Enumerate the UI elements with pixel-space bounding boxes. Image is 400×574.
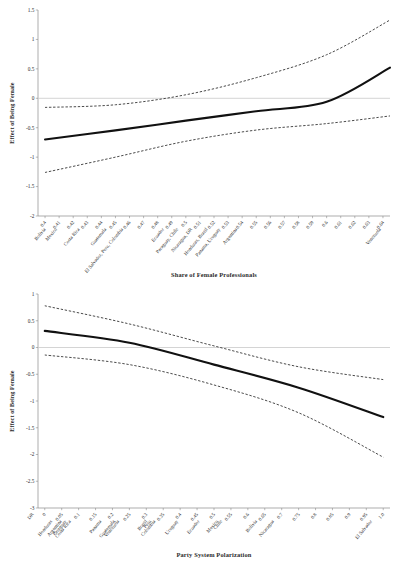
x-tick-label: 0.6 (242, 512, 250, 520)
y-tick-label: -2 (30, 451, 35, 457)
country-label: Panama, Uruguay (195, 227, 223, 259)
chart-panel-top: 1.510.50-0.5-1-1.5-20.40.410.420.430.440… (0, 0, 400, 288)
y-tick-label: 1 (32, 291, 35, 297)
x-tick-label: 0.47 (136, 220, 146, 230)
chart-panel-bottom: 10.50-0.5-1-1.5-2-2.5-300.050.10.150.20.… (0, 286, 400, 574)
y-tick-label: 0 (32, 344, 35, 350)
y-tick-label: 1 (32, 36, 35, 42)
y-tick-label: -0.5 (26, 371, 35, 377)
x-axis-title: Share of Female Professionals (171, 271, 257, 278)
x-tick-label: 0.65 (257, 512, 267, 522)
x-tick-label: 0.59 (305, 220, 315, 230)
confidence-interval-line (45, 355, 383, 457)
y-axis-title: Effect of Being Female (9, 82, 15, 143)
x-tick-label: 0.51 (193, 220, 203, 230)
x-tick-label: 0.48 (150, 220, 160, 230)
x-tick-label: 0.61 (333, 220, 343, 230)
y-tick-label: -1.5 (26, 425, 35, 431)
confidence-interval-line (45, 306, 383, 380)
x-tick-label: 0.4 (39, 220, 47, 228)
x-tick-label: 0.42 (66, 220, 76, 230)
y-tick-label: -2.5 (26, 478, 35, 484)
country-label: Bolivia (245, 518, 259, 533)
y-tick-label: -3 (30, 505, 35, 511)
x-tick-label: 0.54 (235, 220, 245, 230)
y-tick-label: 0.5 (28, 66, 35, 72)
x-tick-label: 0.56 (263, 220, 273, 230)
country-label: Uruguay (164, 519, 179, 536)
x-axis-title: Party System Polarization (176, 551, 251, 558)
country-label: Costa Rica (63, 226, 81, 247)
x-tick-label: 0.53 (221, 220, 231, 230)
x-tick-label: 0.35 (156, 512, 166, 522)
x-tick-label: 0.7 (276, 512, 284, 520)
y-tick-label: -1.5 (26, 183, 35, 189)
country-label: Venezuela (365, 226, 383, 246)
x-tick-label: 0.85 (325, 512, 335, 522)
x-tick-label: 0.5 (208, 512, 216, 520)
x-tick-label: 0.52 (207, 220, 217, 230)
x-tick-label: 0.6 (321, 220, 329, 228)
x-tick-label: 0.45 (108, 220, 118, 230)
x-tick-label: 0.62 (348, 220, 358, 230)
y-tick-label: -1 (30, 154, 35, 160)
y-tick-label: -1 (30, 398, 35, 404)
x-tick-label: 0.63 (362, 220, 372, 230)
x-tick-label: 0.5 (180, 220, 188, 228)
country-label: El Salvador (354, 519, 373, 540)
y-tick-label: 1.5 (28, 7, 35, 13)
confidence-interval-line (45, 116, 390, 173)
x-tick-label: 0.1 (73, 512, 81, 520)
x-tick-label: 0.58 (291, 220, 301, 230)
x-tick-label: 0.55 (249, 220, 259, 230)
y-tick-label: -2 (30, 213, 35, 219)
chart-top-svg: 1.510.50-0.5-1-1.5-20.40.410.420.430.440… (0, 0, 400, 288)
x-tick-label: 0.9 (344, 512, 352, 520)
confidence-interval-line (45, 20, 390, 107)
y-axis-title: Effect of Being Female (9, 370, 15, 431)
y-tick-label: 0 (32, 95, 35, 101)
y-tick-label: 0.5 (28, 318, 35, 324)
x-tick-label: 1.0 (378, 512, 386, 520)
x-tick-label: 0.25 (122, 512, 132, 522)
x-tick-label: 0.2 (107, 512, 115, 520)
x-tick-label: 0.8 (310, 512, 318, 520)
y-tick-label: -0.5 (26, 125, 35, 131)
x-tick-label: 0.43 (80, 220, 90, 230)
fit-line (45, 68, 390, 140)
chart-bottom-svg: 10.50-0.5-1-1.5-2-2.5-300.050.10.150.20.… (0, 286, 400, 574)
x-tick-label-extra: DR (26, 511, 35, 520)
x-tick-label: 0.55 (224, 512, 234, 522)
x-tick-label: 0.75 (291, 512, 301, 522)
country-label: El Salvador, Peru, Colombia (84, 226, 126, 274)
fit-line (45, 331, 383, 417)
country-label: Mexico (44, 227, 58, 242)
x-tick-label: 0.57 (277, 220, 287, 230)
x-tick-label: 0.46 (122, 220, 132, 230)
x-tick-label: 0.4 (174, 512, 182, 520)
figure-page: 1.510.50-0.5-1-1.5-20.40.410.420.430.440… (0, 0, 400, 574)
x-tick-label: 0 (41, 512, 47, 518)
x-tick-label: 0.49 (164, 220, 174, 230)
